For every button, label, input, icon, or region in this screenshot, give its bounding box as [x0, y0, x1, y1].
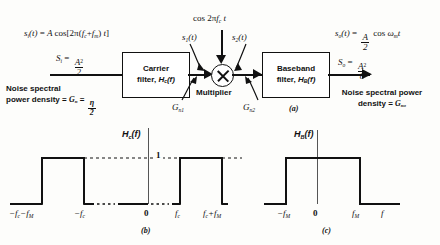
node-gn2-label: Gn2	[243, 102, 255, 113]
input-signal-lhs: si(t)	[24, 28, 38, 38]
chart-c-title: HB(f)	[294, 129, 314, 140]
output-power-label: So = A2 8	[338, 57, 369, 81]
input-wire	[50, 74, 122, 76]
input-noise-label: Noise spectral power density = Gn = η 2	[6, 84, 97, 117]
output-power-fraction: A2 8	[356, 62, 368, 81]
chart-b-xtick-4: fc+fM	[203, 208, 221, 219]
caption-b: (b)	[141, 226, 150, 235]
output-noise-label: Noise spectral power density = Gno	[326, 88, 438, 108]
chart-b-xtick-0: −fc−fM	[9, 208, 33, 219]
caption-a: (a)	[289, 104, 298, 113]
multiplier-label: Multiplier	[196, 88, 232, 97]
multiplier-symbol[interactable]	[211, 64, 234, 87]
figure-root: si(t) = A cos[2π(fc+fm) t] Si = A2 2 Noi…	[0, 0, 440, 245]
caption-c: (c)	[322, 226, 331, 235]
leader-s2	[232, 44, 254, 72]
chart-c-ticks	[264, 198, 404, 206]
chart-b-xtick-1: −fc	[74, 208, 85, 219]
chart-b-title: Hc(f)	[122, 129, 141, 140]
node-s2-label: s2(t)	[232, 32, 247, 43]
chart-b-xtick-2: 0	[144, 208, 149, 218]
leader-gn1	[180, 76, 200, 102]
baseband-filter-block[interactable]: Baseband filter, HB(f)	[262, 52, 330, 98]
chart-c-xtick-0: −fM	[277, 208, 290, 219]
arrow-oscillator-down	[216, 55, 227, 65]
chart-c-xtick-2: fM	[352, 208, 359, 219]
output-signal-equation: so(t) = A 2 cos ωmt	[335, 28, 400, 52]
chart-c-xlabel: f	[381, 208, 384, 218]
node-gn1-label: Gn1	[172, 102, 184, 113]
leader-s1	[186, 44, 208, 72]
local-oscillator-label: cos 2πfc t	[193, 13, 226, 24]
input-noise-fraction: η 2	[88, 99, 96, 116]
chart-b-ticks	[8, 198, 228, 206]
output-signal-fraction: A 2	[360, 33, 370, 52]
chart-b-xtick-3: fc	[175, 208, 180, 219]
local-oscillator-wire	[221, 30, 223, 57]
leader-gn2	[243, 76, 263, 102]
input-signal-equation: si(t) = A cos[2π(fc+fm) t]	[24, 28, 109, 39]
node-s1-label: s1(t)	[182, 32, 197, 43]
chart-c-xtick-1: 0	[313, 208, 318, 218]
